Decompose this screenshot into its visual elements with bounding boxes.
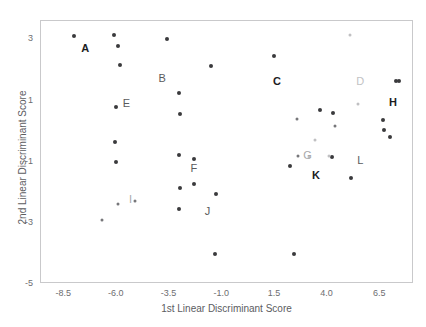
scatter-plot-figure: ABCDEFGHIJKL -8.5-6.0-3.5-1.01.54.06.5 3…	[0, 0, 426, 327]
data-point	[192, 182, 196, 186]
data-point	[318, 108, 322, 112]
y-tick-label: -5	[25, 278, 33, 288]
x-tick-label: -3.5	[161, 288, 177, 298]
data-point	[116, 203, 119, 206]
data-point	[348, 33, 351, 36]
y-tick-label: 3	[28, 33, 33, 43]
data-point	[357, 102, 360, 105]
data-point	[178, 186, 182, 190]
group-label-l: L	[357, 155, 363, 166]
x-axis-title: 1st Linear Discriminant Score	[40, 303, 413, 314]
data-point	[296, 117, 299, 120]
data-point	[114, 105, 118, 109]
data-point	[313, 139, 316, 142]
data-point	[114, 160, 118, 164]
x-tick-label: -1.0	[213, 288, 229, 298]
data-point	[349, 176, 353, 180]
group-label-c: C	[273, 76, 281, 87]
data-point	[292, 252, 296, 256]
data-point	[397, 79, 401, 83]
group-label-d: D	[356, 76, 364, 87]
x-tick-label: 4.0	[320, 288, 333, 298]
data-point	[165, 37, 169, 41]
group-label-e: E	[123, 97, 130, 108]
group-label-g: G	[303, 149, 312, 160]
x-tick-label: -6.0	[108, 288, 124, 298]
data-point	[297, 155, 300, 158]
data-point	[327, 154, 330, 157]
data-point	[272, 54, 276, 58]
data-point	[331, 111, 335, 115]
group-label-j: J	[205, 206, 211, 217]
y-axis-title: 2nd Linear Discriminant Score	[17, 78, 28, 238]
group-label-h: H	[389, 97, 397, 108]
data-point	[177, 207, 181, 211]
data-point	[382, 128, 386, 132]
data-point	[116, 44, 120, 48]
group-label-a: A	[81, 42, 89, 53]
data-point	[388, 135, 392, 139]
x-tick-label: 6.5	[373, 288, 386, 298]
data-point	[333, 124, 336, 127]
data-point	[177, 153, 181, 157]
data-point	[209, 64, 213, 68]
data-point	[192, 157, 196, 161]
data-point	[177, 91, 181, 95]
data-point	[330, 155, 334, 159]
group-label-b: B	[159, 73, 166, 84]
data-point	[72, 34, 76, 38]
data-point	[381, 118, 385, 122]
data-point	[178, 112, 182, 116]
data-point	[112, 33, 116, 37]
data-point	[214, 192, 218, 196]
x-tick-label: 1.5	[268, 288, 281, 298]
data-point	[113, 140, 117, 144]
data-point	[101, 219, 104, 222]
group-label-f: F	[190, 163, 197, 174]
group-label-i: I	[129, 193, 132, 204]
x-tick-label: -8.5	[55, 288, 71, 298]
data-point	[133, 199, 136, 202]
data-point	[118, 63, 122, 67]
plot-frame: ABCDEFGHIJKL	[40, 20, 413, 283]
plot-area: ABCDEFGHIJKL	[41, 21, 412, 282]
data-point	[213, 252, 217, 256]
group-label-k: K	[312, 169, 320, 180]
y-tick-label: 1	[28, 95, 33, 105]
data-point	[288, 164, 292, 168]
